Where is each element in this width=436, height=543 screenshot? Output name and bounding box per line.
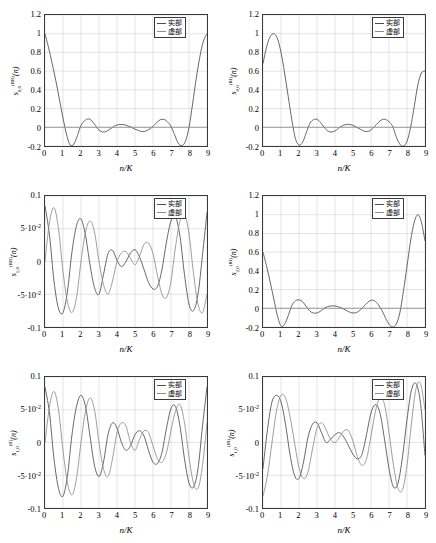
x-tick-label: 5 [133,510,137,520]
x-tick-label: 7 [387,148,391,158]
x-tick-label: 8 [406,148,410,158]
legend-label-imag: 虚部 [168,28,182,37]
y-tick-label: 0.4 [248,266,259,276]
legend-item-imag[interactable]: 虚部 [157,209,182,218]
y-tick-label: -0.1 [28,504,41,514]
x-tick-label: 9 [424,148,428,158]
legend-swatch-imag [157,212,166,213]
x-tick-label: 4 [115,510,119,520]
x-tick-label: 9 [206,329,210,339]
x-tick-label: 6 [369,510,373,520]
y-axis-ticks: 0.15·10-20-5·10-2-0.1 [0,376,41,509]
legend-label-real: 实部 [168,200,182,209]
x-axis-label: n/K [44,163,208,173]
x-axis-label: n/K [262,525,426,535]
legend-label-imag: 虚部 [168,390,182,399]
legend[interactable]: 实部虚部 [154,198,186,219]
legend-swatch-real [157,204,166,205]
x-tick-label: 4 [333,148,337,158]
legend-swatch-imag [375,31,384,32]
legend-label-imag: 虚部 [386,390,400,399]
y-tick-label: 1 [255,209,259,219]
plot-panel: 1.210.80.60.40.20-0.20123456789n/Ks2,0(R… [218,181,436,362]
x-tick-label: 0 [260,329,264,339]
legend-item-real[interactable]: 实部 [375,19,400,28]
x-tick-label: 6 [151,329,155,339]
x-tick-label: 1 [278,329,282,339]
plot-panel: 0.15·10-20-5·10-2-0.10123456789n/Ks1,0(I… [0,362,218,543]
y-tick-label: 0 [37,123,41,133]
y-tick-label: 1.2 [248,190,259,200]
y-tick-label: -0.2 [246,323,259,333]
x-axis-ticks: 0123456789 [44,148,208,160]
legend-item-imag[interactable]: 虚部 [375,28,400,37]
y-axis-label: s1,0(II)(n) [8,398,19,488]
x-tick-label: 6 [369,329,373,339]
x-tick-label: 1 [60,148,64,158]
legend-label-imag: 虚部 [386,209,400,218]
x-tick-label: 7 [169,148,173,158]
x-tick-label: 0 [42,510,46,520]
x-tick-label: 3 [97,329,101,339]
legend[interactable]: 实部虚部 [372,198,404,219]
x-tick-label: 9 [206,148,210,158]
figure-grid: 1.210.80.60.40.20-0.20123456789n/Ks0,0(R… [0,0,436,543]
x-tick-label: 2 [78,148,82,158]
legend-label-real: 实部 [168,381,182,390]
legend-swatch-imag [375,393,384,394]
x-axis-label: n/K [44,344,208,354]
x-tick-label: 6 [151,148,155,158]
legend-item-real[interactable]: 实部 [375,381,400,390]
legend-item-real[interactable]: 实部 [157,200,182,209]
y-tick-label: 0 [37,438,41,448]
x-axis-label: n/K [262,344,426,354]
legend-item-imag[interactable]: 虚部 [157,390,182,399]
x-tick-label: 1 [278,510,282,520]
y-tick-label: 0.4 [248,85,259,95]
x-tick-label: 9 [424,329,428,339]
legend-item-real[interactable]: 实部 [375,200,400,209]
y-tick-label: -0.2 [28,142,41,152]
legend[interactable]: 实部虚部 [372,17,404,38]
x-tick-label: 9 [424,510,428,520]
legend-item-imag[interactable]: 虚部 [375,209,400,218]
y-tick-label: 1 [255,28,259,38]
x-tick-label: 3 [315,329,319,339]
x-axis-label: n/K [262,163,426,173]
legend[interactable]: 实部虚部 [154,379,186,400]
x-tick-label: 1 [60,510,64,520]
x-tick-label: 9 [206,510,210,520]
legend-item-imag[interactable]: 虚部 [375,390,400,399]
y-tick-label: -5·10-2 [236,470,259,481]
y-tick-label: 0.8 [30,47,41,57]
legend[interactable]: 实部虚部 [154,17,186,38]
legend-label-real: 实部 [386,381,400,390]
y-tick-label: 1.2 [30,9,41,19]
y-tick-label: 1 [37,28,41,38]
x-axis-ticks: 0123456789 [44,510,208,522]
x-tick-label: 2 [78,329,82,339]
x-tick-label: 7 [169,510,173,520]
x-tick-label: 3 [315,510,319,520]
x-tick-label: 2 [78,510,82,520]
y-tick-label: 5·10-2 [238,404,259,415]
x-tick-label: 5 [133,329,137,339]
legend[interactable]: 实部虚部 [372,379,404,400]
legend-item-imag[interactable]: 虚部 [157,28,182,37]
x-tick-label: 8 [188,148,192,158]
y-axis-label: s2,0(RI)(n) [228,217,239,307]
x-tick-label: 5 [351,510,355,520]
x-axis-ticks: 0123456789 [262,329,426,341]
legend-item-real[interactable]: 实部 [157,19,182,28]
x-tick-label: 2 [296,510,300,520]
y-tick-label: 0.1 [30,371,41,381]
y-tick-label: 0.6 [248,247,259,257]
legend-item-real[interactable]: 实部 [157,381,182,390]
x-tick-label: 3 [97,148,101,158]
legend-swatch-imag [375,212,384,213]
x-tick-label: 7 [387,329,391,339]
x-tick-label: 2 [296,148,300,158]
y-tick-label: 0.6 [30,66,41,76]
x-tick-label: 7 [169,329,173,339]
x-tick-label: 5 [351,148,355,158]
